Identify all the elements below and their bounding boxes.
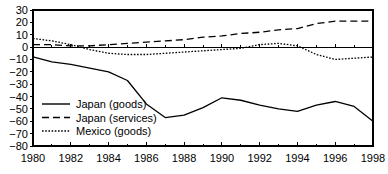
x-tick-label: 1992: [247, 152, 271, 164]
x-tick-label: 1998: [361, 152, 385, 164]
legend-item: Mexico (goods): [42, 125, 151, 137]
y-tick-label: −60: [9, 115, 28, 127]
legend: Japan (goods)Japan (services)Mexico (goo…: [42, 98, 157, 137]
x-tick-label: 1996: [323, 152, 347, 164]
x-tick-label: 1994: [285, 152, 309, 164]
y-tick-label: 10: [16, 29, 28, 41]
y-tick-label: 0: [22, 41, 28, 53]
legend-item: Japan (services): [42, 112, 157, 124]
series-line-japan-services: [33, 21, 373, 46]
series-line-mexico-goods: [33, 38, 373, 59]
y-tick-label: −80: [9, 140, 28, 152]
y-tick-label: −10: [9, 53, 28, 65]
legend-label: Japan (goods): [76, 98, 146, 110]
y-tick-label: −40: [9, 91, 28, 103]
x-tick-label: 1982: [59, 152, 83, 164]
line-chart: 3020100−10−20−30−40−50−60−70−80 19801982…: [0, 0, 388, 174]
x-tick-label: 1984: [96, 152, 120, 164]
y-axis-tick-labels: 3020100−10−20−30−40−50−60−70−80: [9, 4, 28, 152]
x-tick-label: 1980: [21, 152, 45, 164]
x-tick-label: 1986: [134, 152, 158, 164]
legend-label: Mexico (goods): [76, 125, 151, 137]
legend-item: Japan (goods): [42, 98, 146, 110]
y-tick-label: 20: [16, 16, 28, 28]
x-axis-tick-labels: 1980198219841986198819901992199419961998: [21, 152, 385, 164]
y-tick-label: −30: [9, 78, 28, 90]
chart-container: 3020100−10−20−30−40−50−60−70−80 19801982…: [0, 0, 388, 174]
y-tick-label: −50: [9, 103, 28, 115]
x-tick-label: 1990: [210, 152, 234, 164]
x-tick-label: 1988: [172, 152, 196, 164]
y-tick-label: −70: [9, 128, 28, 140]
legend-label: Japan (services): [76, 112, 157, 124]
y-tick-label: 30: [16, 4, 28, 16]
y-tick-label: −20: [9, 66, 28, 78]
